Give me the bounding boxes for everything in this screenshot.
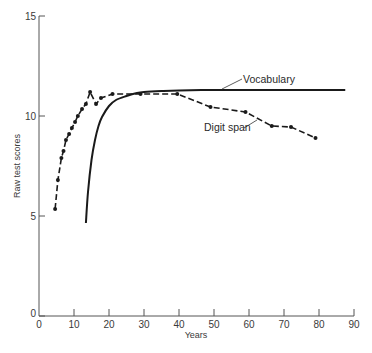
- axes: 0510150102030405060708090: [25, 11, 360, 330]
- digit-span-point: [59, 156, 63, 160]
- digit-span-point: [53, 207, 57, 211]
- digit-span-point: [94, 102, 98, 106]
- vocabulary-leader-line: [222, 79, 242, 89]
- x-tick-label: 0: [36, 319, 42, 330]
- x-tick-label: 70: [278, 319, 290, 330]
- y-tick-label: 10: [25, 111, 37, 122]
- digit-span-point: [80, 107, 84, 111]
- digit-span-point: [84, 102, 88, 106]
- digit-span-point: [111, 92, 115, 96]
- digit-span-point: [88, 90, 92, 94]
- x-tick-label: 10: [68, 319, 80, 330]
- digit-span-point: [62, 149, 66, 153]
- digit-span-point: [76, 114, 80, 118]
- x-tick-label: 20: [103, 319, 115, 330]
- digit-span-point: [99, 96, 103, 100]
- digit-span-point: [270, 124, 274, 128]
- x-axis-label: Years: [185, 330, 208, 340]
- x-tick-label: 50: [208, 319, 220, 330]
- digit-span-label: Digit span: [204, 121, 251, 133]
- y-axis-label: Raw test scores: [12, 133, 22, 198]
- series-group: [53, 90, 345, 223]
- x-tick-label: 40: [173, 319, 185, 330]
- digit-span-point: [175, 92, 179, 96]
- digit-span-point: [67, 132, 71, 136]
- y-tick-label: 5: [30, 211, 36, 222]
- y-tick-label: 0: [30, 308, 36, 319]
- digit-span-point: [70, 126, 74, 130]
- digit-span-line: [55, 92, 315, 209]
- digit-span-point: [56, 178, 60, 182]
- x-tick-label: 80: [313, 319, 325, 330]
- line-chart: 0510150102030405060708090 Vocabulary Dig…: [0, 0, 372, 353]
- y-tick-label: 15: [25, 11, 37, 22]
- digit-span-point: [139, 92, 143, 96]
- digit-span-point: [314, 136, 318, 140]
- digit-span-point: [209, 105, 213, 109]
- vocabulary-label: Vocabulary: [243, 73, 296, 85]
- digit-span-point: [244, 110, 248, 114]
- digit-span-point: [73, 120, 77, 124]
- x-tick-label: 30: [138, 319, 150, 330]
- x-tick-label: 90: [348, 319, 360, 330]
- x-tick-label: 60: [243, 319, 255, 330]
- vocabulary-line: [86, 90, 345, 223]
- digit-span-point: [289, 125, 293, 129]
- digit-span-point: [64, 138, 68, 142]
